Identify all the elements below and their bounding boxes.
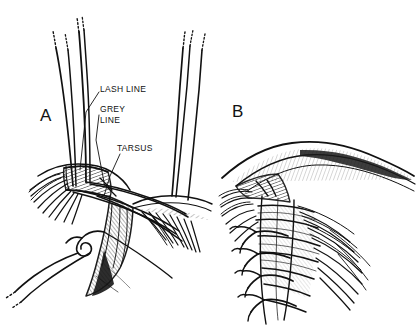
label-tarsus: TARSUS xyxy=(117,143,153,154)
label-grey-line-word2: LINE xyxy=(100,115,125,126)
panel-letter-a: A xyxy=(40,106,51,126)
label-grey-line: GREY LINE xyxy=(100,104,125,126)
label-lash-line: LASH LINE xyxy=(100,84,146,95)
label-grey-line-word1: GREY xyxy=(100,104,125,115)
panel-letter-b: B xyxy=(232,102,243,122)
illustration-figure: LASH LINE GREY LINE TARSUS A B xyxy=(0,0,417,336)
eyelid-repair-drawing xyxy=(0,0,417,336)
